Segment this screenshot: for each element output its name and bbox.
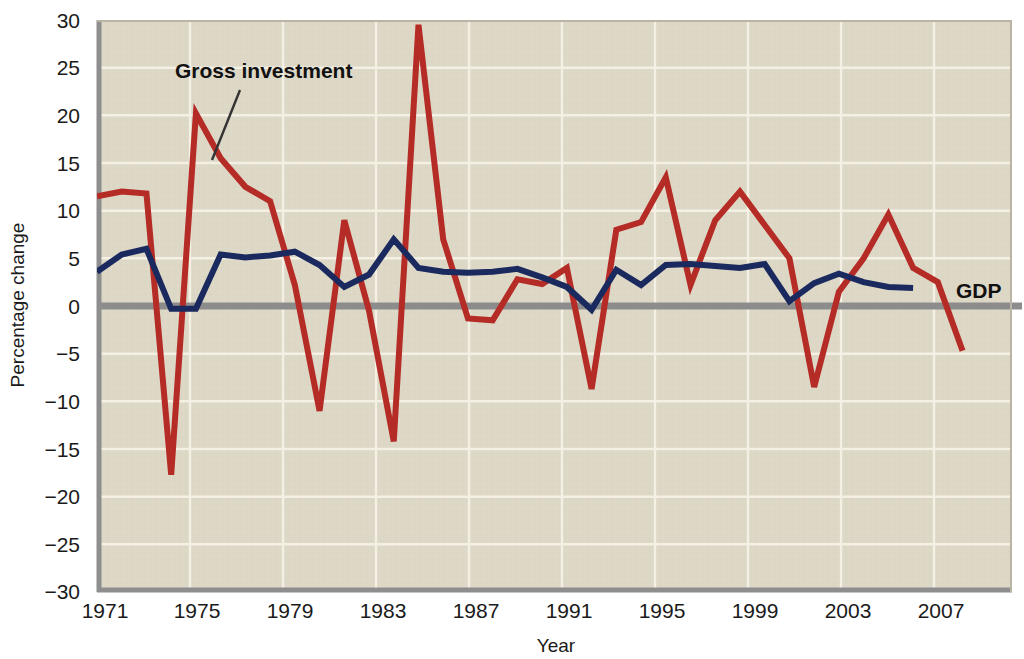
chart-container: 30 25 20 15 10 5 0 −5 −10 −15 −20 −25 −3…: [0, 0, 1024, 659]
y-tick-15: 15: [57, 152, 80, 175]
y-tick-5: 5: [68, 247, 80, 270]
y-tick-20: 20: [57, 104, 80, 127]
y-tick-0: 0: [68, 295, 80, 318]
line-chart: 30 25 20 15 10 5 0 −5 −10 −15 −20 −25 −3…: [0, 0, 1024, 659]
y-tick-m25: −25: [44, 533, 80, 556]
y-tick-m10: −10: [44, 390, 80, 413]
x-tick-2003: 2003: [825, 599, 872, 622]
x-tick-1991: 1991: [546, 599, 593, 622]
x-tick-1995: 1995: [639, 599, 686, 622]
x-tick-1983: 1983: [360, 599, 407, 622]
y-axis-title: Percentage change: [7, 223, 28, 388]
x-axis-title: Year: [537, 635, 576, 656]
x-tick-1979: 1979: [267, 599, 314, 622]
y-tick-m5: −5: [56, 342, 80, 365]
gdp-label: GDP: [956, 279, 1002, 302]
y-tick-10: 10: [57, 199, 80, 222]
y-tick-25: 25: [57, 56, 80, 79]
x-tick-1999: 1999: [732, 599, 779, 622]
y-tick-m20: −20: [44, 485, 80, 508]
x-tick-1987: 1987: [453, 599, 500, 622]
y-tick-30: 30: [57, 9, 80, 32]
x-tick-1975: 1975: [174, 599, 221, 622]
x-tick-1971: 1971: [82, 599, 129, 622]
y-tick-m30: −30: [44, 580, 80, 603]
gross-investment-label: Gross investment: [175, 59, 352, 82]
y-tick-m15: −15: [44, 438, 80, 461]
x-tick-2007: 2007: [918, 599, 965, 622]
